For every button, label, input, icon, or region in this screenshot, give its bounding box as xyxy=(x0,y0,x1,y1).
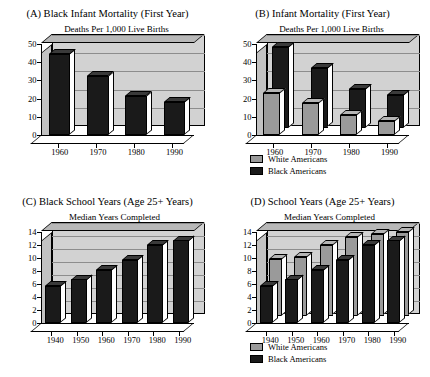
chart-bar-side xyxy=(318,98,324,135)
chart-bar-front xyxy=(164,102,185,135)
chart-x-tick-label: 1960 xyxy=(41,148,79,157)
chart-y-tick-label: 0 xyxy=(232,319,252,328)
chart-y-tick xyxy=(252,232,256,233)
legend-swatch-black-icon xyxy=(250,167,263,175)
chart-y-tick-label: 0 xyxy=(232,131,252,140)
chart-bar xyxy=(285,279,298,323)
chart-y-tick-label: 12 xyxy=(17,241,37,250)
chart-bar xyxy=(71,279,87,323)
chart-y-tick xyxy=(37,117,41,118)
chart-y-tick-label: 20 xyxy=(232,95,252,104)
chart-x-tick-label: 1990 xyxy=(170,336,196,345)
chart-y-tick-label: 40 xyxy=(17,58,37,67)
chart-bar xyxy=(387,240,400,323)
chart-bar-side xyxy=(327,63,333,127)
chart-bar-front xyxy=(71,279,87,323)
chart-bar-front xyxy=(147,245,163,323)
chart-bar-front xyxy=(302,103,319,135)
chart-x-axis xyxy=(41,135,194,136)
chart-bar-front xyxy=(45,286,61,323)
chart-y-tick xyxy=(252,258,256,259)
chart-x-tick-label: 1970 xyxy=(119,336,145,345)
chart-bar-front xyxy=(362,245,375,323)
chart-y-tick-label: 8 xyxy=(232,267,252,276)
chart-x-tick-label: 1950 xyxy=(68,336,94,345)
chart-y-tick xyxy=(37,80,41,81)
legend-label-white: White Americans xyxy=(268,154,327,164)
chart-gridline xyxy=(52,35,205,36)
figure-sheet: (A) Black Infant Mortality (First Year) … xyxy=(0,0,430,377)
chart-y-tick-label: 10 xyxy=(17,254,37,263)
chart-bar xyxy=(147,245,163,323)
chart-y-tick-label: 10 xyxy=(232,254,252,263)
panel-b: (B) Infant Mortality (First Year) Deaths… xyxy=(215,2,430,190)
chart-x-tick-label: 1960 xyxy=(94,336,120,345)
chart-bar-side xyxy=(374,240,380,323)
legend-swatch-black-icon xyxy=(250,355,263,363)
chart-bar xyxy=(340,115,357,135)
chart-y-tick-label: 6 xyxy=(232,280,252,289)
chart-x-tick-label: 1980 xyxy=(332,148,370,157)
chart-y-tick xyxy=(37,99,41,100)
chart-x-tick-label: 1970 xyxy=(79,148,117,157)
chart-x-tick-label: 1980 xyxy=(360,336,386,345)
chart-y-tick xyxy=(37,271,41,272)
chart-bar-side xyxy=(111,265,117,323)
chart-bar-side xyxy=(403,90,409,128)
chart-y-tick xyxy=(37,284,41,285)
panel-a: (A) Black Infant Mortality (First Year) … xyxy=(0,2,215,190)
chart-y-tick xyxy=(252,284,256,285)
chart-bar-front xyxy=(263,93,280,135)
chart-bar xyxy=(302,103,319,135)
legend-row-black: Black Americans xyxy=(250,166,327,176)
chart-y-tick xyxy=(37,232,41,233)
panel-a-plot: 010203040501960197019801990 xyxy=(19,35,209,155)
panel-c: (C) Black School Years (Age 25+ Years) M… xyxy=(0,190,215,377)
chart-bar xyxy=(260,286,273,323)
panel-b-title: (B) Infant Mortality (First Year) xyxy=(215,8,430,20)
chart-bar xyxy=(263,93,280,135)
legend-row-white: White Americans xyxy=(250,154,327,164)
chart-y-tick-label: 4 xyxy=(232,293,252,302)
chart-bar-side xyxy=(108,71,114,135)
chart-bar-side xyxy=(365,84,371,128)
chart-bar-side xyxy=(399,236,405,323)
chart-floor xyxy=(30,323,194,332)
chart-y-tick-label: 30 xyxy=(17,76,37,85)
chart-bar xyxy=(164,102,185,135)
chart-bar-side xyxy=(137,255,143,323)
chart-bar-front xyxy=(340,115,357,135)
chart-y-tick xyxy=(252,44,256,45)
chart-y-tick xyxy=(37,258,41,259)
panel-c-title: (C) Black School Years (Age 25+ Years) xyxy=(0,196,215,208)
chart-bar xyxy=(125,96,146,135)
chart-bar-side xyxy=(86,275,92,323)
chart-bar-side xyxy=(323,265,329,323)
chart-y-tick-label: 30 xyxy=(232,76,252,85)
chart-bar xyxy=(96,270,112,323)
chart-bar-front xyxy=(122,260,138,323)
chart-y-axis xyxy=(41,232,42,324)
chart-bar-front xyxy=(96,270,112,323)
chart-y-tick-label: 50 xyxy=(232,40,252,49)
chart-bar xyxy=(336,260,349,323)
chart-y-tick-label: 2 xyxy=(232,306,252,315)
chart-bar xyxy=(378,121,395,135)
legend-label-black: Black Americans xyxy=(268,354,326,364)
panel-d: (D) School Years (Age 25+ Years) Median … xyxy=(215,190,430,377)
chart-y-tick-label: 40 xyxy=(232,58,252,67)
chart-bar-front xyxy=(173,240,189,323)
chart-y-tick-label: 0 xyxy=(17,319,37,328)
chart-gridline xyxy=(267,223,420,224)
chart-bar-side xyxy=(348,255,354,323)
chart-x-tick-label: 1990 xyxy=(385,336,411,345)
chart-y-tick xyxy=(37,44,41,45)
chart-y-tick xyxy=(37,297,41,298)
chart-y-tick xyxy=(37,323,41,324)
chart-y-tick xyxy=(37,135,41,136)
chart-bar-side xyxy=(297,275,303,323)
chart-y-tick xyxy=(252,245,256,246)
chart-y-tick xyxy=(252,271,256,272)
chart-x-axis xyxy=(256,135,409,136)
chart-bar xyxy=(122,260,138,323)
